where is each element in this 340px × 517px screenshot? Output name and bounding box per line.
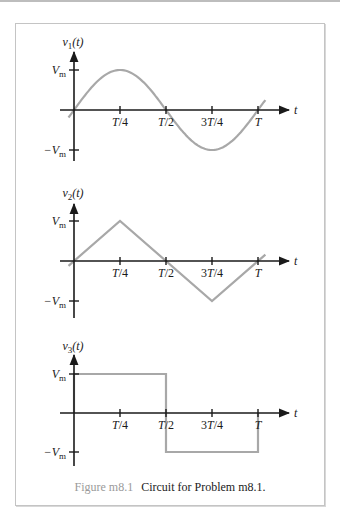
y-tick-label-neg-vm: −Vm bbox=[44, 143, 66, 159]
x-tick-label: 3T/4 bbox=[201, 266, 223, 280]
x-tick-label: T bbox=[255, 115, 263, 129]
x-tick-label: 3T/4 bbox=[201, 115, 223, 129]
figure-caption-text: Circuit for Problem m8.1. bbox=[141, 480, 265, 494]
y-tick-label-neg-vm: −Vm bbox=[44, 445, 66, 461]
x-tick-label: T bbox=[255, 418, 263, 432]
x-tick-label: T/2 bbox=[158, 266, 174, 280]
figure-plots: T/4T/23T/4TVm−Vmv1(t)tT/4T/23T/4TVm−Vmv2… bbox=[0, 0, 340, 517]
x-axis-label: t bbox=[294, 406, 298, 420]
x-tick-label: T/2 bbox=[158, 418, 174, 432]
x-axis-label: t bbox=[294, 103, 298, 117]
x-tick-label: 3T/4 bbox=[201, 418, 223, 432]
y-axis-label: v3(t) bbox=[62, 339, 83, 355]
figure-label: Figure m8.1 bbox=[75, 480, 134, 494]
panel-2: T/4T/23T/4TVm−Vmv2(t)t bbox=[44, 186, 298, 318]
x-tick-label: T/4 bbox=[112, 418, 128, 432]
x-tick-label: T/4 bbox=[112, 266, 128, 280]
x-tick-label: T/2 bbox=[158, 115, 174, 129]
x-axis-label: t bbox=[294, 254, 298, 268]
y-axis-label: v1(t) bbox=[62, 35, 83, 51]
y-axis-label: v2(t) bbox=[62, 186, 83, 202]
y-tick-label-vm: Vm bbox=[52, 214, 66, 230]
panel-1: T/4T/23T/4TVm−Vmv1(t)t bbox=[44, 35, 298, 161]
x-tick-label: T/4 bbox=[112, 115, 128, 129]
y-tick-label-vm: Vm bbox=[52, 367, 66, 383]
panel-3: T/4T/23T/4TVm−Vmv3(t)t bbox=[44, 339, 298, 466]
figure-caption: Figure m8.1 Circuit for Problem m8.1. bbox=[0, 480, 340, 495]
y-tick-label-neg-vm: −Vm bbox=[44, 294, 66, 310]
y-tick-label-vm: Vm bbox=[52, 63, 66, 79]
x-tick-label: T bbox=[255, 266, 263, 280]
